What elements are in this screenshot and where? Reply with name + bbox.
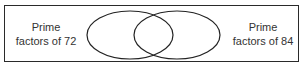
set-84-ellipse <box>134 11 220 59</box>
set-72-label: Prime factors of 72 <box>6 20 86 48</box>
set-84-label-line1: Prime <box>223 20 302 34</box>
set-72-label-line2: factors of 72 <box>6 34 86 48</box>
set-84-label-line2: factors of 84 <box>223 34 302 48</box>
set-72-ellipse <box>87 11 173 59</box>
set-72-label-line1: Prime <box>6 20 86 34</box>
set-84-label: Prime factors of 84 <box>223 20 302 48</box>
